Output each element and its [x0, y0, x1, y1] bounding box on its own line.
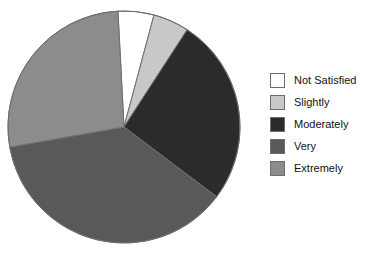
legend-item-not-satisfied[interactable]: Not Satisfied [270, 72, 386, 89]
legend-item-slightly[interactable]: Slightly [270, 94, 386, 111]
legend-item-very[interactable]: Very [270, 138, 386, 155]
legend-item-moderately[interactable]: Moderately [270, 116, 386, 133]
legend-swatch-not-satisfied [270, 73, 285, 88]
legend-label-extremely: Extremely [294, 162, 343, 175]
pie-chart-plot-area [0, 0, 252, 253]
legend-label-very: Very [294, 140, 316, 153]
legend-swatch-moderately [270, 117, 285, 132]
legend-label-slightly: Slightly [294, 96, 329, 109]
chart-legend: Not Satisfied Slightly Moderately Very E… [270, 72, 386, 177]
pie-slices-group [8, 11, 240, 243]
legend-swatch-slightly [270, 95, 285, 110]
pie-slice-extremely[interactable] [8, 11, 124, 147]
pie-chart-figure: Not Satisfied Slightly Moderately Very E… [0, 0, 386, 253]
legend-swatch-extremely [270, 161, 285, 176]
legend-swatch-very [270, 139, 285, 154]
legend-label-moderately: Moderately [294, 118, 348, 131]
legend-item-extremely[interactable]: Extremely [270, 160, 386, 177]
legend-label-not-satisfied: Not Satisfied [294, 74, 356, 87]
pie-chart-svg [0, 0, 252, 253]
